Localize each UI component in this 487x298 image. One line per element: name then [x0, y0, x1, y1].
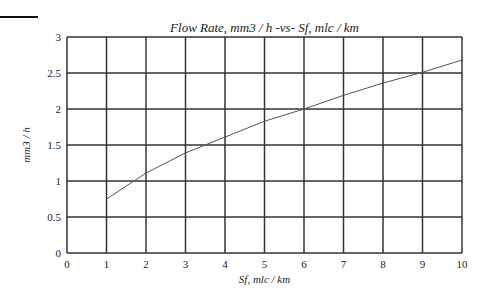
- x-tick-label: 3: [183, 258, 189, 270]
- y-tick-label: 1.5: [47, 139, 61, 151]
- plot-area: 01234567891000.511.522.53: [0, 0, 487, 298]
- x-tick-label: 9: [420, 258, 426, 270]
- x-tick-label: 10: [457, 258, 469, 270]
- data-line-flow-rate: [107, 60, 463, 199]
- x-tick-label: 8: [380, 258, 386, 270]
- x-tick-label: 1: [104, 258, 110, 270]
- x-tick-label: 7: [341, 258, 347, 270]
- x-tick-label: 0: [64, 258, 70, 270]
- y-tick-label: 0.5: [47, 211, 61, 223]
- y-tick-label: 2.5: [47, 67, 61, 79]
- x-tick-label: 4: [222, 258, 228, 270]
- x-tick-label: 5: [262, 258, 268, 270]
- x-tick-label: 2: [143, 258, 149, 270]
- x-tick-label: 6: [301, 258, 307, 270]
- y-tick-label: 0: [56, 247, 62, 259]
- y-tick-label: 3: [56, 31, 62, 43]
- y-tick-label: 1: [56, 175, 62, 187]
- y-tick-label: 2: [56, 103, 62, 115]
